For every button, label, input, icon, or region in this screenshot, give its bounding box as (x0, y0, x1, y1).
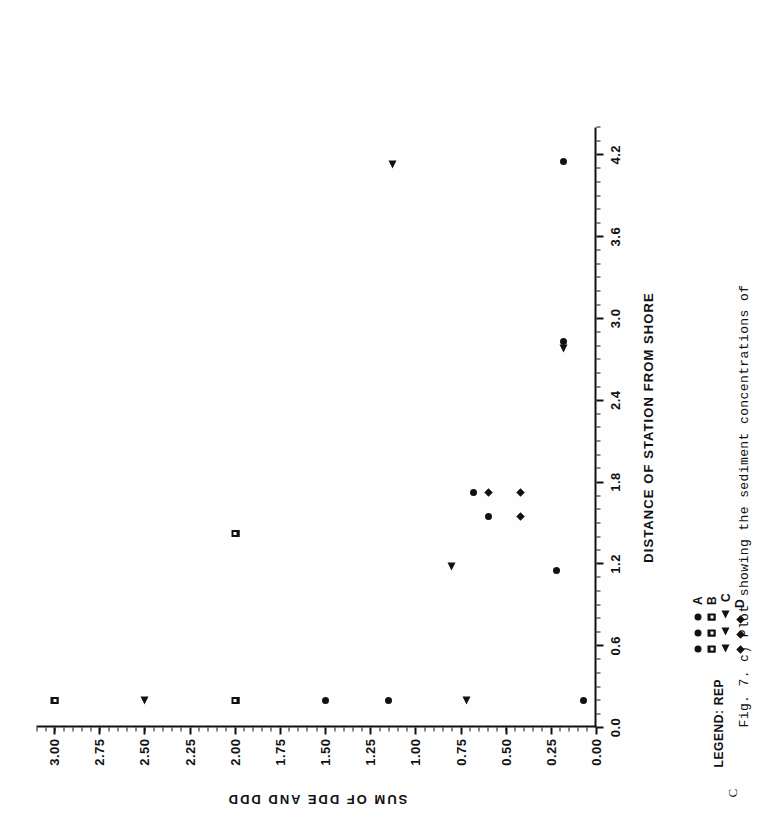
y-tick-minor (126, 727, 127, 731)
data-point-D (517, 513, 523, 519)
y-tick-minor (198, 727, 199, 731)
y-tick-minor (72, 727, 73, 731)
y-tick-minor (243, 727, 244, 731)
x-tick-minor (596, 127, 600, 128)
y-tick-minor (153, 727, 154, 731)
y-tick-minor (207, 727, 208, 731)
y-tick-minor (135, 727, 136, 731)
x-tick-minor (596, 372, 600, 373)
figure-caption: Fig. 7. c) Plot showing the sediment con… (736, 284, 751, 727)
y-tick-minor (442, 727, 443, 731)
data-point-A (560, 158, 567, 165)
marker-dot (560, 158, 567, 165)
x-tick-label: 0.0 (607, 717, 622, 737)
x-tick-label: 3.0 (607, 308, 622, 328)
y-tick-label: 1.50 (318, 738, 333, 765)
data-point-C (462, 696, 470, 704)
plot-area: 0.000.250.500.751.001.251.501.752.002.25… (36, 127, 596, 727)
data-point-B (231, 696, 239, 703)
x-tick-major (596, 235, 603, 237)
legend-label: A (690, 595, 704, 604)
y-tick-minor (288, 727, 289, 731)
legend-marker-triangle (721, 610, 729, 618)
y-tick-minor (162, 727, 163, 731)
legend-symbols (704, 613, 718, 652)
y-tick-label: 2.25 (182, 738, 197, 765)
y-tick-minor (297, 727, 298, 731)
y-tick-minor (36, 727, 37, 731)
x-tick-minor (596, 304, 600, 305)
x-tick-minor (596, 590, 600, 591)
y-tick-minor (108, 727, 109, 731)
marker-square (50, 696, 58, 703)
y-tick-label: 1.25 (363, 738, 378, 765)
y-tick-minor (379, 727, 380, 731)
legend-symbol (690, 645, 704, 652)
x-tick-label: 3.6 (607, 226, 622, 246)
marker-square (231, 696, 239, 703)
legend-symbols (690, 613, 704, 652)
x-tick-minor (596, 413, 600, 414)
data-point-A (580, 696, 587, 703)
x-tick-major (596, 562, 603, 564)
x-tick-minor (596, 290, 600, 291)
legend-marker-square (707, 613, 715, 620)
legend-label: B (704, 595, 718, 604)
x-tick-minor (596, 263, 600, 264)
legend-entry-C: C (718, 592, 732, 652)
marker-square (231, 530, 239, 537)
marker-dot (484, 512, 491, 519)
x-tick-label: 1.8 (607, 472, 622, 492)
x-tick-minor (596, 631, 600, 632)
x-tick-major (596, 644, 603, 646)
y-tick-minor (496, 727, 497, 731)
rotated-figure-wrapper: C SUM OF DDE AND DDD 0.000.250.500.751.0… (0, 0, 761, 819)
y-tick-minor (225, 727, 226, 731)
y-tick-minor (478, 727, 479, 731)
y-tick-minor (361, 727, 362, 731)
marker-dot (580, 696, 587, 703)
x-tick-major (596, 481, 603, 483)
data-point-C (388, 160, 396, 168)
data-point-B (231, 530, 239, 537)
x-tick-minor (596, 508, 600, 509)
x-tick-major (596, 399, 603, 401)
x-tick-minor (596, 617, 600, 618)
legend-marker-triangle (721, 627, 729, 635)
y-tick-minor (451, 727, 452, 731)
y-tick-label: 0.75 (453, 738, 468, 765)
x-tick-minor (596, 167, 600, 168)
y-tick-minor (514, 727, 515, 731)
legend-symbol (690, 613, 704, 620)
x-tick-minor (596, 699, 600, 700)
y-tick-major (460, 727, 462, 734)
x-tick-minor (596, 277, 600, 278)
x-tick-label: 0.6 (607, 635, 622, 655)
data-point-A (322, 696, 329, 703)
y-tick-major (279, 727, 281, 734)
x-tick-minor (596, 345, 600, 346)
x-tick-minor (596, 358, 600, 359)
y-tick-minor (90, 727, 91, 731)
x-tick-minor (596, 181, 600, 182)
legend-entry-A: A (690, 592, 704, 652)
legend-marker-square (707, 629, 715, 636)
y-tick-label: 2.50 (137, 738, 152, 765)
panel-letter: C (724, 788, 740, 797)
marker-triangle (388, 160, 396, 168)
legend-symbol (704, 645, 718, 652)
legend-symbol (690, 629, 704, 636)
y-axis-title: SUM OF DDE AND DDD (36, 779, 596, 819)
marker-dot (385, 696, 392, 703)
marker-triangle (140, 696, 148, 704)
y-tick-minor (532, 727, 533, 731)
x-tick-minor (596, 536, 600, 537)
marker-dot (322, 696, 329, 703)
x-tick-minor (596, 672, 600, 673)
marker-dot (470, 489, 477, 496)
y-tick-minor (469, 727, 470, 731)
legend-symbol (718, 644, 732, 652)
figure: C SUM OF DDE AND DDD 0.000.250.500.751.0… (0, 0, 761, 819)
y-tick-minor (45, 727, 46, 731)
scanned-figure-page: C SUM OF DDE AND DDD 0.000.250.500.751.0… (0, 0, 761, 819)
